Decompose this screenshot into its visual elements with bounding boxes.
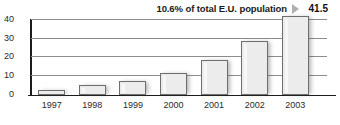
bar-slot-1999 [113, 19, 154, 95]
bar-2001[interactable] [201, 60, 228, 94]
bar-slot-2002 [234, 19, 275, 95]
x-tick-label-2001: 2001 [194, 100, 235, 110]
y-tick-label-10: 10 [0, 70, 14, 80]
x-tick-label-1997: 1997 [32, 100, 73, 110]
x-tick-label-1999: 1999 [113, 100, 154, 110]
x-axis-labels: 1997 1998 1999 2000 2001 2002 2003 [32, 100, 316, 110]
triangle-right-icon [292, 4, 299, 14]
bar-highlight [204, 63, 207, 92]
bar-chart: 10.6% of total E.U. population 41.5 40 3… [0, 0, 340, 125]
y-tick-label-40: 40 [0, 14, 14, 24]
bar-slot-2000 [153, 19, 194, 95]
bar-slot-2003 [275, 19, 316, 95]
bar-series [32, 19, 316, 95]
bar-highlight [285, 19, 288, 92]
bar-highlight [82, 88, 85, 92]
x-tick-label-2000: 2000 [153, 100, 194, 110]
y-tick-label-30: 30 [0, 33, 14, 43]
bar-2003[interactable] [282, 16, 309, 94]
bar-slot-1997 [32, 19, 73, 95]
bar-slot-2001 [194, 19, 235, 95]
annotation-value: 41.5 [304, 3, 328, 14]
bar-highlight [244, 44, 247, 92]
chart-annotation: 10.6% of total E.U. population 41.5 [0, 1, 336, 16]
plot-area: 40 30 20 10 0 [30, 19, 316, 96]
bar-highlight [163, 76, 166, 92]
bar-highlight [122, 84, 125, 93]
bar-2002[interactable] [241, 41, 268, 94]
y-tick-label-20: 20 [0, 51, 14, 61]
x-tick-label-2002: 2002 [234, 100, 275, 110]
y-tick-label-0: 0 [0, 89, 14, 99]
x-tick-label-1998: 1998 [72, 100, 113, 110]
bar-1999[interactable] [119, 81, 146, 95]
bar-1998[interactable] [79, 85, 106, 94]
x-tick-label-2003: 2003 [275, 100, 316, 110]
annotation-label: 10.6% of total E.U. population [156, 3, 287, 14]
bar-2000[interactable] [160, 73, 187, 94]
bar-slot-1998 [72, 19, 113, 95]
x-axis-line [28, 95, 336, 97]
bar-1997[interactable] [38, 90, 65, 94]
